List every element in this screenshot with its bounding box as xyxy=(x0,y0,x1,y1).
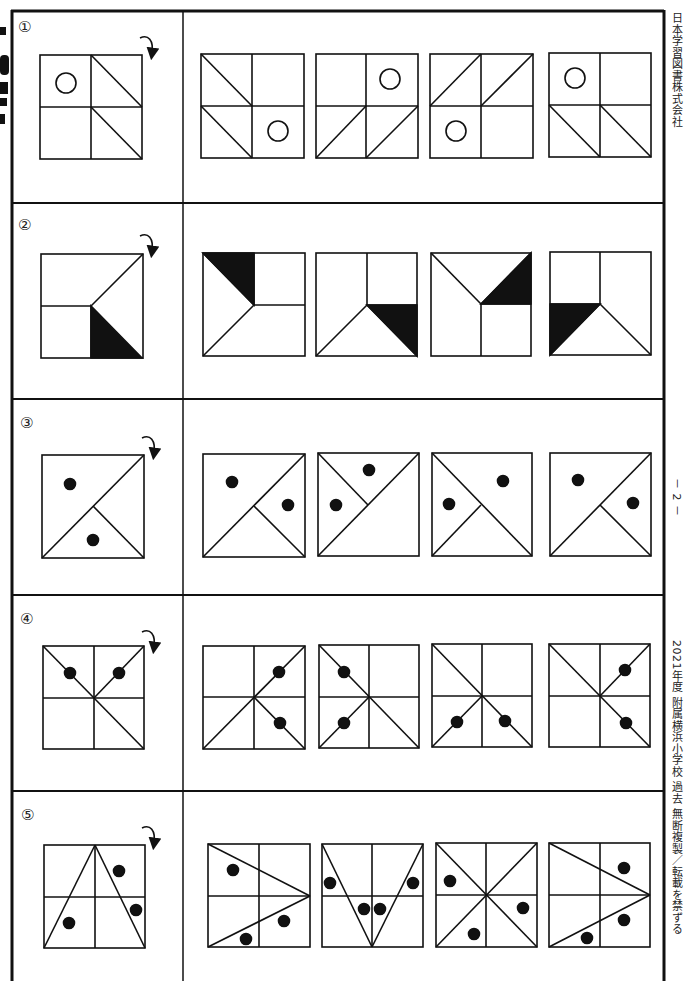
example-figure-4 xyxy=(43,646,144,749)
rotate-clockwise-arrow-icon xyxy=(140,37,152,54)
question-number-5: ⑤ xyxy=(21,806,34,824)
rotate-clockwise-arrow-icon xyxy=(142,437,154,454)
option-2-2[interactable] xyxy=(316,253,417,356)
question-number-2: ② xyxy=(18,216,31,234)
example-figure-2 xyxy=(41,254,143,358)
option-1-2[interactable] xyxy=(316,54,418,158)
question-numbers: ① ② ③ ④ ⑤ xyxy=(18,18,34,824)
example-figure-3 xyxy=(42,455,144,558)
option-2-4[interactable] xyxy=(550,252,651,355)
option-3-2[interactable] xyxy=(318,453,419,556)
option-1-3[interactable] xyxy=(430,54,533,158)
option-3-4[interactable] xyxy=(550,453,651,556)
option-1-1[interactable] xyxy=(201,54,304,158)
option-3-3[interactable] xyxy=(432,453,532,556)
example-figure-5 xyxy=(44,845,145,948)
question-2 xyxy=(41,235,651,358)
option-4-2[interactable] xyxy=(319,645,419,748)
rotate-clockwise-arrow-icon xyxy=(142,827,154,844)
question-1 xyxy=(40,37,651,159)
worksheet-page: ① ② ③ ④ ⑤ 日本学習図書株式会社 － 2 － 2021年度 附属横浜小学… xyxy=(0,0,686,981)
question-number-3: ③ xyxy=(20,414,33,432)
option-5-3[interactable] xyxy=(436,843,537,947)
option-5-1[interactable] xyxy=(208,844,310,947)
question-number-1: ① xyxy=(18,18,31,36)
option-4-4[interactable] xyxy=(549,644,650,747)
question-number-4: ④ xyxy=(20,610,33,628)
option-5-2[interactable] xyxy=(322,844,423,947)
page-number: － 2 － xyxy=(668,478,684,517)
option-4-3[interactable] xyxy=(432,644,532,747)
option-2-1[interactable] xyxy=(203,253,305,356)
option-4-1[interactable] xyxy=(203,646,305,749)
option-3-1[interactable] xyxy=(203,454,305,557)
outer-frame xyxy=(11,10,664,981)
example-figure-1 xyxy=(40,55,142,159)
rotate-clockwise-arrow-icon xyxy=(140,235,152,252)
worksheet-canvas: ① ② ③ ④ ⑤ xyxy=(0,0,686,981)
copyright-notice: 2021年度 附属横浜小学校 過去 無断複製／転載を禁ずる xyxy=(668,640,684,935)
question-4 xyxy=(43,631,650,749)
option-1-4[interactable] xyxy=(549,53,651,157)
option-2-3[interactable] xyxy=(431,253,531,356)
question-5 xyxy=(44,827,650,948)
question-3 xyxy=(42,437,651,558)
option-5-4[interactable] xyxy=(549,843,650,947)
publisher-credit: 日本学習図書株式会社 xyxy=(668,12,684,127)
cut-off-heading-glyph xyxy=(0,27,9,124)
